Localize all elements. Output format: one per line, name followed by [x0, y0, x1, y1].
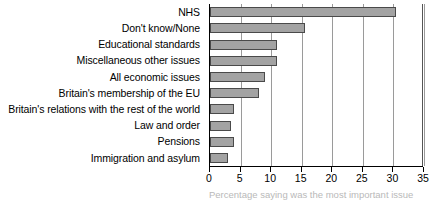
x-tick-label: 25 [356, 173, 368, 184]
x-tick-label: 35 [417, 173, 429, 184]
bar [210, 40, 277, 50]
bar-slot [210, 36, 422, 52]
bar [210, 121, 231, 131]
category-label: Immigration and asylum [0, 150, 205, 166]
x-tick-label: 10 [264, 173, 276, 184]
bar-slot [210, 4, 422, 20]
gridline [424, 4, 425, 166]
category-label: All economic issues [0, 69, 205, 85]
bar-slot [210, 85, 422, 101]
category-label: Britain's relations with the rest of the… [0, 101, 205, 117]
x-tick-label: 0 [206, 173, 212, 184]
bar-slot [210, 101, 422, 117]
bar [210, 56, 277, 66]
bar-slot [210, 53, 422, 69]
chart-caption: Percentage saying was the most important… [209, 190, 432, 201]
bar-slot [210, 134, 422, 150]
bar-chart: NHSDon't know/NoneEducational standardsM… [0, 0, 432, 201]
bar [210, 153, 228, 163]
bar-slot [210, 69, 422, 85]
bar [210, 23, 305, 33]
bar-slot [210, 20, 422, 36]
plot-area [209, 4, 423, 166]
x-tick-label: 30 [387, 173, 399, 184]
category-label: Don't know/None [0, 20, 205, 36]
bar [210, 7, 396, 17]
x-tick-label: 15 [295, 173, 307, 184]
bar [210, 104, 234, 114]
category-label: Law and order [0, 117, 205, 133]
bar [210, 137, 234, 147]
bar-slot [210, 117, 422, 133]
category-axis-labels: NHSDon't know/NoneEducational standardsM… [0, 4, 205, 166]
x-tick-label: 20 [325, 173, 337, 184]
bar-slot [210, 150, 422, 166]
x-tick-label: 5 [237, 173, 243, 184]
category-label: Miscellaneous other issues [0, 53, 205, 69]
bar [210, 72, 265, 82]
category-label: Pensions [0, 134, 205, 150]
bars-container [210, 4, 422, 166]
category-label: Educational standards [0, 36, 205, 52]
bar [210, 88, 259, 98]
x-axis-tick-labels: 05101520253035 [209, 173, 423, 187]
category-label: Britain's membership of the EU [0, 85, 205, 101]
category-label: NHS [0, 4, 205, 20]
